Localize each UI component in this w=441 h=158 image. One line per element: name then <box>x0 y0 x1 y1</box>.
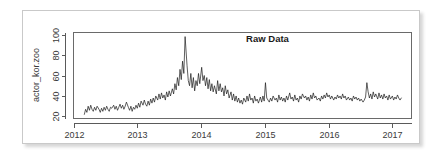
x-tick-label: 2013 <box>127 130 147 140</box>
data-series-line <box>84 37 401 115</box>
y-tick-labels: 20406080100 <box>51 28 61 122</box>
x-tick-label: 2016 <box>319 130 339 140</box>
x-tick-marks <box>75 124 393 128</box>
plot-panel-box <box>74 33 412 119</box>
y-tick-label: 80 <box>51 50 61 60</box>
y-tick-marks <box>62 36 66 117</box>
x-tick-labels: 201220132014201520162017 <box>64 130 402 140</box>
x-tick-label: 2014 <box>191 130 211 140</box>
x-tick-label: 2012 <box>64 130 84 140</box>
y-axis-title: actor_kor.zoo <box>31 48 41 102</box>
x-tick-label: 2015 <box>255 130 275 140</box>
screenshot-root: 20406080100 201220132014201520162017 act… <box>0 0 441 158</box>
x-axis: 201220132014201520162017 <box>64 124 411 140</box>
y-axis: 20406080100 <box>51 28 66 122</box>
raw-data-line-chart: 20406080100 201220132014201520162017 act… <box>23 11 421 145</box>
chart-card: 20406080100 201220132014201520162017 act… <box>22 10 420 144</box>
chart-title: Raw Data <box>246 33 289 44</box>
x-tick-label: 2017 <box>382 130 402 140</box>
y-tick-label: 60 <box>51 71 61 81</box>
y-tick-label: 40 <box>51 91 61 101</box>
y-tick-label: 100 <box>51 28 61 43</box>
y-tick-label: 20 <box>51 111 61 121</box>
